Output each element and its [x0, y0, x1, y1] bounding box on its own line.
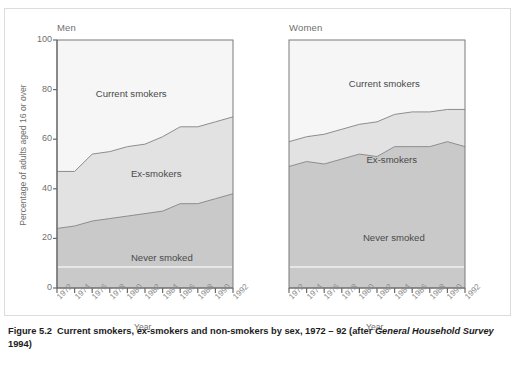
band-label-current-smokers-men: Current smokers: [96, 88, 167, 99]
figure-container: Men Women Percentage of adults aged 16 o…: [0, 0, 517, 366]
band-label-ex-smokers-men: Ex-smokers: [131, 168, 182, 179]
y-tick-label-20: 20: [26, 232, 52, 242]
band-label-current-smokers-women: Current smokers: [349, 78, 420, 89]
y-tick-label-80: 80: [26, 84, 52, 94]
y-tick-label-100: 100: [26, 34, 52, 44]
women-plot-area: [232, 0, 482, 300]
caption-figure-number: Figure 5.2: [8, 326, 52, 336]
band-label-never-smoked-women: Never smoked: [363, 232, 425, 243]
caption-source: General Household Survey: [375, 326, 494, 336]
band-label-ex-smokers-women: Ex-smokers: [366, 154, 417, 165]
men-plot-area: [0, 0, 250, 300]
figure-caption: Figure 5.2 Current smokers, ex-smokers a…: [8, 325, 508, 352]
y-tick-label-60: 60: [26, 133, 52, 143]
y-tick-label-40: 40: [26, 183, 52, 193]
band-label-never-smoked-men: Never smoked: [131, 252, 193, 263]
caption-tail: 1994): [8, 339, 32, 349]
y-tick-label-0: 0: [26, 282, 52, 292]
caption-body: Current smokers, ex-smokers and non-smok…: [57, 326, 375, 336]
